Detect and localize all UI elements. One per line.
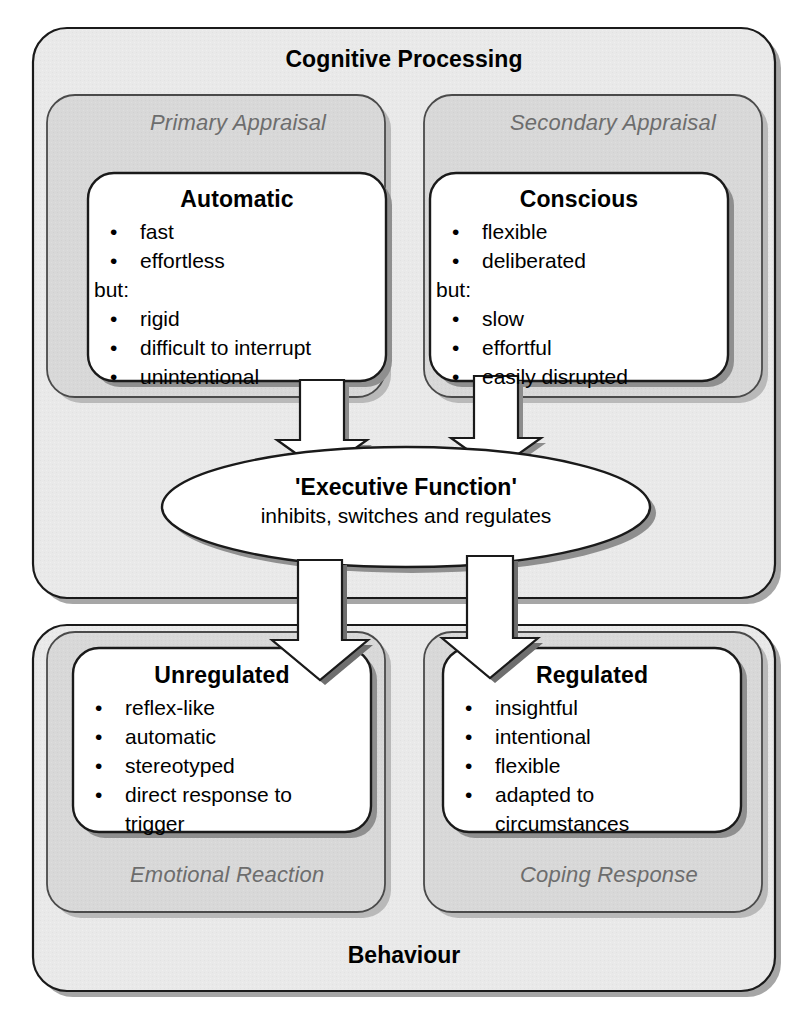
card-automatic-cons: •rigid •difficult to interrupt •unintent… [88,304,386,391]
list-item-label: effortful [482,336,552,359]
bullet-icon: • [110,217,117,246]
list-item-label: difficult to interrupt [140,336,311,359]
list-item-label: effortless [140,249,225,272]
panel-label-secondary-appraisal: Secondary Appraisal [510,110,716,136]
card-automatic: Automatic •fast •effortless but: •rigid … [88,186,386,391]
card-automatic-conjunction: but: [94,275,386,304]
list-item-label: slow [482,307,524,330]
list-item-label: fast [140,220,174,243]
list-item: •insightful [443,693,741,722]
list-item: •deliberated [430,246,728,275]
page-title-behaviour: Behaviour [33,942,775,969]
card-unregulated: Unregulated •reflex-like •automatic •ste… [73,662,371,838]
list-item: •fast [88,217,386,246]
bullet-icon: • [465,751,472,780]
card-conscious: Conscious •flexible •deliberated but: •s… [430,186,728,391]
card-title-automatic: Automatic [88,186,386,213]
list-item: •intentional [443,722,741,751]
hub-title: 'Executive Function' [162,474,650,501]
list-item: •adapted to circumstances [443,780,705,838]
hub-subtitle: inhibits, switches and regulates [162,504,650,528]
bullet-icon: • [452,362,459,391]
bullet-icon: • [465,693,472,722]
card-title-unregulated: Unregulated [73,662,371,689]
list-item-label: stereotyped [125,754,235,777]
list-item-label: direct response to trigger [125,783,292,835]
bullet-icon: • [452,217,459,246]
bullet-icon: • [452,246,459,275]
bullet-icon: • [110,362,117,391]
card-automatic-pros: •fast •effortless [88,217,386,275]
card-conscious-conjunction: but: [436,275,728,304]
list-item-label: insightful [495,696,578,719]
list-item: •effortful [430,333,728,362]
list-item: •flexible [430,217,728,246]
card-conscious-cons: •slow •effortful •easily disrupted [430,304,728,391]
bullet-icon: • [95,693,102,722]
list-item: •reflex-like [73,693,371,722]
card-regulated: Regulated •insightful •intentional •flex… [443,662,741,838]
hub-executive-function: 'Executive Function' inhibits, switches … [162,474,650,528]
panel-label-coping-response: Coping Response [520,862,698,888]
list-item: •unintentional [88,362,386,391]
list-item-label: reflex-like [125,696,215,719]
card-title-regulated: Regulated [443,662,741,689]
bullet-icon: • [110,333,117,362]
list-item-label: flexible [495,754,560,777]
list-item-label: flexible [482,220,547,243]
panel-label-primary-appraisal: Primary Appraisal [150,110,326,136]
page-title-cognitive-processing: Cognitive Processing [33,46,775,73]
card-title-conscious: Conscious [430,186,728,213]
card-unregulated-items: •reflex-like •automatic •stereotyped •di… [73,693,371,838]
list-item-label: easily disrupted [482,365,628,388]
list-item-label: deliberated [482,249,586,272]
diagram-canvas: Cognitive Processing Primary Appraisal S… [0,0,810,1029]
list-item-label: rigid [140,307,180,330]
bullet-icon: • [110,304,117,333]
list-item: •stereotyped [73,751,371,780]
bullet-icon: • [452,333,459,362]
list-item-label: unintentional [140,365,259,388]
bullet-icon: • [95,780,102,809]
list-item: •direct response to trigger [73,780,325,838]
card-regulated-items: •insightful •intentional •flexible •adap… [443,693,741,838]
list-item: •rigid [88,304,386,333]
bullet-icon: • [452,304,459,333]
list-item-label: automatic [125,725,216,748]
list-item: •flexible [443,751,741,780]
list-item: •automatic [73,722,371,751]
list-item: •difficult to interrupt [88,333,386,362]
list-item-label: adapted to circumstances [495,783,629,835]
list-item: •slow [430,304,728,333]
card-conscious-pros: •flexible •deliberated [430,217,728,275]
list-item: •easily disrupted [430,362,728,391]
bullet-icon: • [95,751,102,780]
bullet-icon: • [95,722,102,751]
bullet-icon: • [465,722,472,751]
bullet-icon: • [465,780,472,809]
panel-label-emotional-reaction: Emotional Reaction [130,862,324,888]
bullet-icon: • [110,246,117,275]
list-item: •effortless [88,246,386,275]
list-item-label: intentional [495,725,591,748]
